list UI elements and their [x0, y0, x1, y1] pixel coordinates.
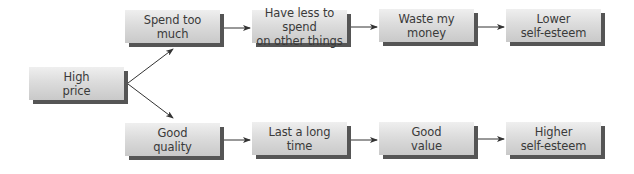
node-good-value: Good value: [379, 122, 474, 155]
arrow-high-price-to-spend-too-much: [128, 49, 173, 83]
node-high-price: High price: [29, 67, 124, 100]
node-spend-too-much: Spend too much: [125, 10, 220, 43]
node-label: Good value: [411, 125, 442, 153]
node-label: High price: [62, 70, 90, 98]
node-waste-my-money: Waste my money: [379, 9, 474, 42]
node-label: Last a long time: [268, 125, 330, 153]
node-label: Spend too much: [144, 13, 202, 41]
node-label: Waste my money: [398, 12, 454, 40]
node-label: Lower self-esteem: [521, 12, 587, 40]
node-last-a-long-time: Last a long time: [252, 122, 347, 155]
arrow-high-price-to-good-quality: [128, 84, 173, 118]
node-label: Higher self-esteem: [521, 125, 587, 153]
node-have-less-to-spend: Have less to spend on other things: [252, 10, 347, 43]
node-lower-self-esteem: Lower self-esteem: [506, 9, 601, 42]
node-good-quality: Good quality: [125, 123, 220, 156]
node-higher-self-esteem: Higher self-esteem: [506, 122, 601, 155]
node-label: Good quality: [153, 126, 192, 154]
node-label: Have less to spend on other things: [252, 6, 347, 48]
